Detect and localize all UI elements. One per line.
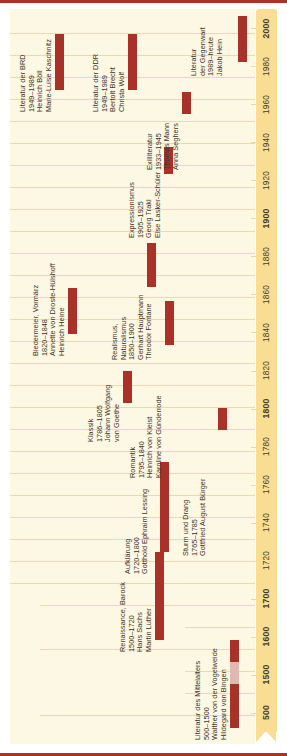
year-tick-label: 1900	[256, 208, 277, 228]
era-bar-mittelalter-lower[interactable]	[230, 684, 239, 728]
era-label-aufklaerung: Aufklärung 1720–1800 Gotthold Ephraim Le…	[124, 489, 150, 574]
era-author-2: Anna Seghers	[172, 123, 181, 170]
grid-separator	[10, 165, 255, 166]
year-tick-1920: 1920	[256, 170, 277, 191]
year-tick-mark	[251, 447, 256, 448]
year-tick-1980: 1980	[256, 56, 277, 77]
year-tick-label: 1740	[256, 513, 277, 532]
year-tick-1840: 1840	[256, 322, 277, 343]
era-bar-ddr[interactable]	[128, 34, 137, 90]
year-tick-1960: 1960	[256, 94, 277, 115]
year-tick-label: 1940	[256, 133, 277, 152]
year-tick-label: 1500	[256, 665, 277, 685]
year-tick-label: 1800	[256, 399, 277, 419]
year-tick-label: 1860	[256, 285, 277, 304]
grid-separator	[10, 385, 255, 386]
year-tick-label: 1600	[256, 627, 277, 647]
era-label-mittelalter: Literatur des Mittelalters 500–1500 Walt…	[194, 648, 228, 740]
year-tick-mark	[251, 104, 256, 105]
era-label-sturm-und-drang: Sturm und Drang 1765–1785 Gottfried Augu…	[182, 479, 208, 556]
year-tick-500: 500	[256, 702, 277, 723]
year-tick-mark	[251, 713, 256, 714]
year-tick-mark	[251, 485, 256, 486]
year-tick-label: 2000	[256, 18, 277, 38]
year-tick-1880: 1880	[256, 246, 277, 267]
year-tick-mark	[251, 599, 256, 600]
year-tick-mark	[251, 256, 256, 257]
year-tick-label: 1820	[256, 361, 277, 380]
year-tick-mark	[251, 66, 256, 67]
year-tick-1760: 1760	[256, 474, 277, 495]
grid-separator	[10, 121, 255, 122]
year-tick-label: 1720	[256, 551, 277, 570]
era-label-brd: Literatur der BRD 1949–1989 Heinrich Böl…	[19, 39, 53, 112]
era-bar-renaissance-barock[interactable]	[155, 552, 164, 640]
grid-separator	[10, 363, 255, 364]
year-tick-1720: 1720	[256, 550, 277, 571]
top-rule	[0, 0, 287, 3]
era-author-2: Heinrich Heine	[58, 263, 67, 356]
era-label-exilliteratur: Exilliteratur 1933–1945 Thomas Mann Anna…	[146, 123, 180, 170]
era-label-gegenwart: Literatur der Gegenwart 1989–heute Jakob…	[190, 27, 224, 76]
year-tick-mark	[251, 332, 256, 333]
era-label-biedermeier: Biedermeier, Vormärz 1820–1848 Annette v…	[32, 263, 66, 356]
era-bar-gegenwart[interactable]	[238, 16, 247, 62]
year-tick-1820: 1820	[256, 360, 277, 381]
year-tick-mark	[251, 637, 256, 638]
year-tick-mark	[251, 294, 256, 295]
year-tick-label: 1780	[256, 437, 277, 456]
literature-timeline-figure: Literatur der Gegenwart 1989–heute Jakob…	[0, 0, 287, 756]
era-author-2: Marie-Luise Kaschnitz	[45, 39, 54, 112]
era-bar-exilliteratur[interactable]	[182, 92, 191, 114]
year-tick-mark	[251, 523, 256, 524]
year-tick-1940: 1940	[256, 132, 277, 153]
year-tick-label: 500	[256, 705, 277, 720]
year-tick-1800: 1800	[256, 398, 277, 419]
era-bar-realismus[interactable]	[147, 243, 156, 287]
era-author: Gotthold Ephraim Lessing	[141, 489, 150, 574]
year-tick-mark	[251, 142, 256, 143]
year-tick-mark	[251, 675, 256, 676]
year-tick-label: 1980	[256, 57, 277, 76]
grid-separator	[185, 627, 255, 628]
year-tick-label: 1760	[256, 475, 277, 494]
year-tick-label: 1880	[256, 247, 277, 266]
era-author: Jakob Hein	[216, 27, 225, 76]
year-tick-1700: 1700	[256, 588, 277, 609]
era-author-2: Christa Wolf	[118, 54, 127, 112]
year-tick-label: 1700	[256, 589, 277, 609]
grid-separator	[10, 143, 255, 144]
year-tick-1740: 1740	[256, 512, 277, 533]
era-author: Gottfried August Bürger	[199, 479, 208, 556]
year-tick-2000: 2000	[256, 18, 277, 39]
year-tick-label: 1840	[256, 323, 277, 342]
year-tick-label: 1920	[256, 171, 277, 190]
year-tick-1860: 1860	[256, 284, 277, 305]
era-bar-romantik[interactable]	[165, 301, 174, 345]
year-tick-1900: 1900	[256, 208, 277, 229]
year-tick-mark	[251, 561, 256, 562]
era-author-2: Hildegard von Bingen	[220, 648, 229, 740]
year-tick-1600: 1600	[256, 626, 277, 647]
era-author-2: von Goethe	[113, 385, 122, 442]
era-author-2: Karoline von Günderrode	[155, 395, 164, 478]
era-bar-brd[interactable]	[55, 34, 64, 90]
year-axis[interactable]: 5001500160017001720174017601780180018201…	[256, 9, 277, 732]
era-author-2: Theodor Fontane	[145, 295, 154, 360]
year-tick-mark	[251, 409, 256, 410]
era-author-2: Else Lasker-Schüler	[154, 172, 163, 238]
era-label-renaissance-barock: Renaissance, Barock 1500–1720 Hans Sachs…	[119, 582, 153, 652]
era-author-2: Martin Luther	[145, 582, 154, 652]
year-tick-1500: 1500	[256, 664, 277, 685]
era-label-klassik: Klassik 1786–1805 Johann Wolfgang von Go…	[87, 385, 121, 442]
year-tick-mark	[251, 180, 256, 181]
year-tick-mark	[251, 28, 256, 29]
era-bar-mittelalter-gap[interactable]	[230, 662, 239, 684]
era-bar-biedermeier[interactable]	[68, 288, 77, 334]
era-label-realismus: Realismus, Naturalismus 1850–1900 Gerhar…	[111, 295, 154, 360]
era-label-ddr: Literatur der DDR 1949–1989 Bertolt Brec…	[92, 54, 126, 112]
year-axis-foot	[256, 731, 276, 742]
year-tick-mark	[251, 371, 256, 372]
year-tick-1780: 1780	[256, 436, 277, 457]
era-bar-sturm-und-drang[interactable]	[218, 408, 227, 430]
